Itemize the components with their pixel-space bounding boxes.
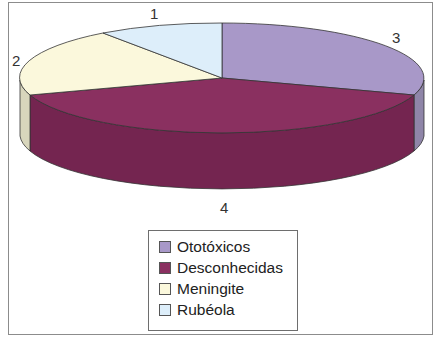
data-label-rubeola: 1 (150, 5, 158, 22)
legend-label: Meningite (177, 280, 244, 298)
data-label-ototoxicos: 3 (392, 29, 400, 46)
chart-legend: Ototóxicos Desconhecidas Meningite Rubéo… (148, 230, 298, 331)
legend-item-ototoxicos: Ototóxicos (149, 236, 297, 257)
data-label-meningite: 2 (12, 52, 20, 69)
data-label-desconhecidas: 4 (220, 199, 228, 216)
legend-item-rubeola: Rubéola (149, 299, 297, 320)
legend-item-desconhecidas: Desconhecidas (149, 257, 297, 278)
legend-swatch-desconhecidas (159, 262, 171, 274)
legend-label: Desconhecidas (177, 259, 283, 277)
legend-label: Rubéola (177, 301, 235, 319)
legend-swatch-meningite (159, 283, 171, 295)
legend-item-meningite: Meningite (149, 278, 297, 299)
legend-swatch-rubeola (159, 304, 171, 316)
legend-swatch-ototoxicos (159, 241, 171, 253)
legend-label: Ototóxicos (177, 238, 250, 256)
